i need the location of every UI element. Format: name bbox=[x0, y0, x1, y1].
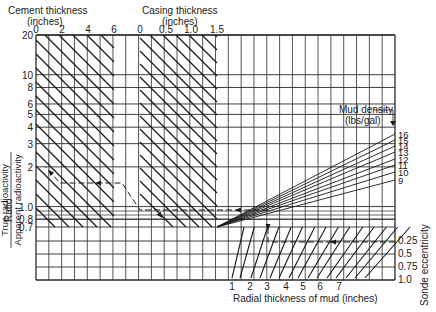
mud-thickness-tick: 2 bbox=[247, 281, 253, 292]
ratio-tick: 4 bbox=[27, 122, 33, 133]
ratio-tick: 6 bbox=[27, 99, 33, 110]
mud-thickness-tick: 1 bbox=[229, 281, 235, 292]
mud-density-title: Mud density bbox=[339, 104, 393, 115]
mud-thickness-tick: 7 bbox=[336, 281, 342, 292]
casing-tick: 0 bbox=[137, 24, 143, 35]
mud-thickness-tick: 3 bbox=[264, 281, 270, 292]
mud-density-curves bbox=[217, 134, 395, 227]
casing-axis-title: Casing thickness bbox=[142, 5, 218, 16]
cement-tick: 4 bbox=[85, 24, 91, 35]
casing-axis-unit: (inches) bbox=[162, 16, 198, 27]
sonde-eccentricity-label: Sonde eccentricity bbox=[419, 224, 430, 306]
cement-axis-title: Cement thickness bbox=[8, 5, 87, 16]
grid-lines bbox=[36, 35, 395, 280]
mud-density-unit: (lbs/gal) bbox=[345, 115, 381, 126]
ratio-denominator: Apparent radioactivity bbox=[12, 154, 23, 246]
mud-thickness-tick: 5 bbox=[300, 281, 306, 292]
cement-tick: 6 bbox=[111, 24, 117, 35]
eccentricity-tick: 0.5 bbox=[398, 248, 412, 259]
ratio-tick: 2 bbox=[27, 162, 33, 173]
eccentricity-lines bbox=[232, 227, 410, 278]
ratio-tick: 20 bbox=[22, 30, 34, 41]
mud-thickness-tick: 6 bbox=[317, 281, 323, 292]
example-path bbox=[45, 166, 395, 242]
ratio-tick: 5 bbox=[27, 109, 33, 120]
ratio-tick: 8 bbox=[27, 82, 33, 93]
eccentricity-tick: 0.25 bbox=[398, 235, 418, 246]
ratio-numerator: True radioactivity bbox=[0, 164, 10, 236]
eccentricity-tick: 0.75 bbox=[398, 261, 418, 272]
mud-thickness-tick: 4 bbox=[283, 281, 289, 292]
eccentricity-tick: 1.0 bbox=[398, 274, 412, 285]
mud-density-value: 9 bbox=[398, 175, 403, 186]
ratio-tick: 3 bbox=[27, 139, 33, 150]
cement-axis-unit: (inches) bbox=[27, 16, 63, 27]
nomogram-chart: 20108654321.00.80.7024600.51.01.51615141… bbox=[0, 0, 436, 312]
mud-thickness-axis-title: Radial thickness of mud (inches) bbox=[233, 293, 378, 304]
casing-tick: 1.5 bbox=[210, 24, 224, 35]
ratio-tick: 10 bbox=[22, 70, 34, 81]
